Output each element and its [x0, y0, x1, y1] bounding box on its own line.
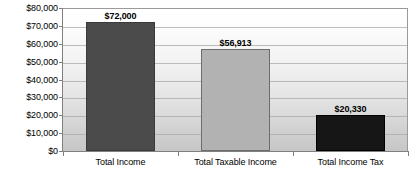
- bar-value-label: $72,000: [81, 11, 161, 21]
- y-tick-label: $20,000: [0, 111, 58, 120]
- bar-value-label: $56,913: [196, 38, 276, 48]
- y-tick-label: $50,000: [0, 57, 58, 66]
- bar: [86, 22, 155, 151]
- y-tick-label: $80,000: [0, 4, 58, 13]
- y-tick-label: $70,000: [0, 21, 58, 30]
- bar: [316, 115, 385, 151]
- y-tick-label: $40,000: [0, 75, 58, 84]
- x-tick-mark: [63, 152, 64, 156]
- x-tick-mark: [293, 152, 294, 156]
- y-tick-label: $30,000: [0, 93, 58, 102]
- x-tick-mark: [178, 152, 179, 156]
- bar-value-label: $20,330: [311, 104, 391, 114]
- y-tick-label: $10,000: [0, 129, 58, 138]
- x-tick-mark: [408, 152, 409, 156]
- x-tick-label: Total Income: [61, 157, 181, 167]
- y-tick-label: $60,000: [0, 39, 58, 48]
- bar-chart: $80,000 $70,000 $60,000 $50,000 $40,000 …: [0, 0, 419, 176]
- x-axis-line: [62, 151, 409, 152]
- y-axis-label-group: $80,000 $70,000 $60,000 $50,000 $40,000 …: [0, 8, 58, 151]
- x-tick-label: Total Taxable Income: [176, 157, 296, 167]
- bars-layer: [63, 8, 408, 151]
- x-tick-label: Total Income Tax: [291, 157, 411, 167]
- bar: [201, 49, 270, 151]
- y-tick-label: $0: [0, 147, 58, 156]
- x-axis-label-group: Total IncomeTotal Taxable IncomeTotal In…: [63, 157, 408, 173]
